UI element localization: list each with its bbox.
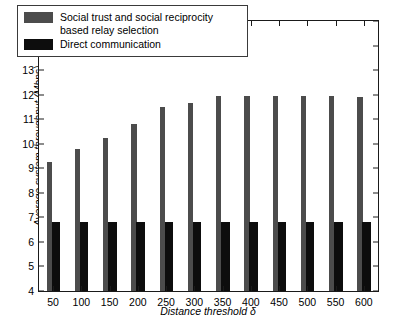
y-tick-mark [39,266,44,267]
x-tick-mark [307,286,308,291]
plot-inner [39,21,378,291]
bar-direct-communication [278,222,286,291]
y-tick-label: 5 [28,260,34,272]
y-tick-mark [39,291,44,292]
y-tick-mark [39,168,44,169]
y-tick-mark-right [373,168,378,169]
y-tick-label: 11 [23,113,34,125]
x-tick-mark-top [251,21,252,26]
x-tick-mark [138,286,139,291]
x-tick-mark [81,286,82,291]
bar-direct-communication [80,222,88,291]
y-tick-mark [39,241,44,242]
y-tick-mark-right [373,21,378,22]
x-tick-mark [53,286,54,291]
x-tick-mark [110,286,111,291]
legend-item: Direct communication [24,38,239,51]
x-tick-mark-top [364,21,365,26]
x-tick-mark [336,286,337,291]
bar-direct-communication [334,222,342,291]
chart-figure: Average system throughput (Mbps) 4567891… [0,0,394,326]
y-tick-mark-right [373,143,378,144]
legend-item: Social trust and social reciprocitybased… [24,11,239,36]
y-tick-label: 8 [28,187,34,199]
y-tick-mark [39,192,44,193]
y-tick-mark [39,217,44,218]
legend-label: Direct communication [60,38,161,51]
y-tick-mark-right [373,45,378,46]
y-tick-label: 9 [28,162,34,174]
x-axis-title: Distance threshold δ [38,305,378,317]
bar-direct-communication [362,222,370,291]
y-tick-mark-right [373,94,378,95]
x-tick-mark [364,286,365,291]
bar-direct-communication [136,222,144,291]
legend-swatch-gray [24,12,53,23]
bar-direct-communication [165,222,173,291]
x-tick-mark [251,286,252,291]
y-tick-mark [39,70,44,71]
x-tick-mark [166,286,167,291]
y-tick-mark [39,119,44,120]
x-tick-mark-top [307,21,308,26]
y-tick-label: 12 [22,89,34,101]
chart-legend: Social trust and social reciprocitybased… [17,5,248,57]
plot-area: 456789101112131415 501001502002503003504… [38,20,379,292]
x-tick-mark [223,286,224,291]
bar-direct-communication [52,222,60,291]
y-tick-label: 10 [22,138,34,150]
x-tick-mark-top [336,21,337,26]
y-tick-mark-right [373,119,378,120]
y-tick-mark [39,143,44,144]
y-tick-label: 13 [22,64,34,76]
legend-swatch-black [24,39,53,50]
y-tick-mark-right [373,266,378,267]
y-tick-mark [39,94,44,95]
y-tick-label: 4 [28,285,34,297]
bar-direct-communication [249,222,257,291]
y-tick-mark-right [373,291,378,292]
y-tick-label: 6 [28,236,34,248]
bar-direct-communication [306,222,314,291]
y-tick-mark-right [373,241,378,242]
y-tick-mark-right [373,70,378,71]
legend-label: Social trust and social reciprocitybased… [60,11,213,36]
y-tick-label: 7 [28,211,34,223]
x-tick-mark [279,286,280,291]
x-tick-mark-top [279,21,280,26]
bar-direct-communication [108,222,116,291]
x-tick-mark [194,286,195,291]
bar-direct-communication [193,222,201,291]
y-tick-mark-right [373,217,378,218]
y-tick-mark-right [373,192,378,193]
bar-direct-communication [221,222,229,291]
